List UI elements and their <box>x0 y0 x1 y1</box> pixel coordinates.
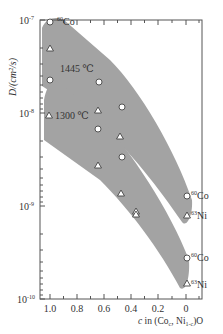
temp-1300-label: 1300 ℃ <box>55 110 89 121</box>
svg-text:0.2: 0.2 <box>152 303 165 314</box>
svg-text:0: 0 <box>184 303 189 314</box>
y-axis-title: D/(cm²/s) <box>7 57 19 97</box>
co-label-1300: 60Co <box>191 252 209 263</box>
co-label-1445: 60Co <box>191 190 209 201</box>
x-tick-labels: 1.0 0.8 0.6 0.4 0.2 0 <box>44 303 189 314</box>
svg-text:10-10: 10-10 <box>17 294 35 305</box>
ni-label-1300: 63Ni <box>191 279 207 290</box>
temp-1445-label: 1445 ℃ <box>60 63 94 74</box>
svg-text:0.8: 0.8 <box>71 303 84 314</box>
ni-label-1445: 63Ni <box>191 210 207 221</box>
diffusion-chart: 10-7 10-8 10-9 10-10 1.0 0.8 0.6 0.4 0.2… <box>0 0 223 334</box>
svg-text:1.0: 1.0 <box>44 303 57 314</box>
y-tick-labels: 10-7 10-8 10-9 10-10 <box>17 15 35 305</box>
svg-text:10-8: 10-8 <box>19 108 34 119</box>
svg-text:10-7: 10-7 <box>19 15 34 26</box>
svg-text:0.4: 0.4 <box>125 303 138 314</box>
x-axis-title: c in (Coc, Ni1-c)O <box>138 316 203 327</box>
svg-text:10-9: 10-9 <box>19 201 34 212</box>
svg-text:0.6: 0.6 <box>98 303 111 314</box>
